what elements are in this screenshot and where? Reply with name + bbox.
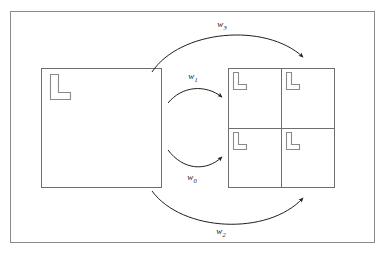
diagram-canvas: w3 w1 w0 w2 (0, 0, 388, 256)
source-block-outline (42, 69, 162, 188)
source-block (42, 69, 162, 188)
arrow-label-w3-subscript: 3 (222, 24, 227, 31)
wavelet-decomposition-diagram: w3 w1 w0 w2 (0, 0, 388, 256)
arrow-label-w1-subscript: 1 (194, 76, 197, 83)
target-grid (229, 69, 335, 188)
